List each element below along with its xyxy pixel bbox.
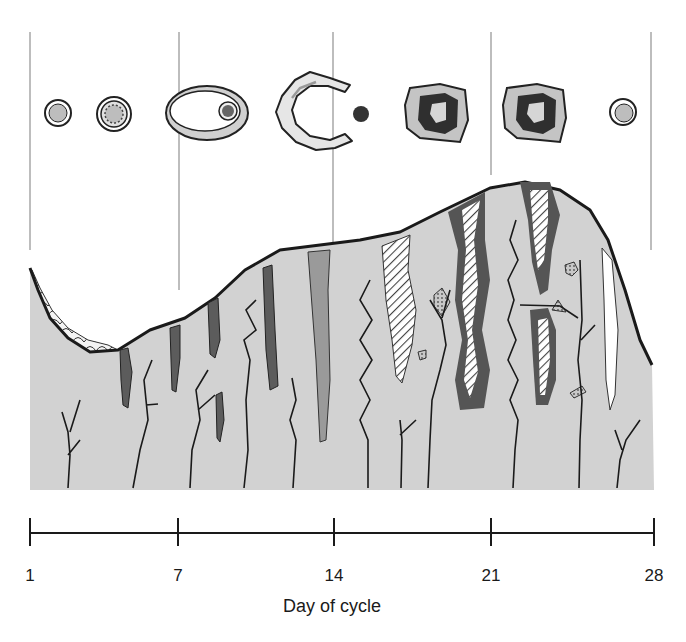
corpus-luteum-icon [503, 84, 566, 142]
ruptured-follicle-icon [276, 72, 369, 150]
tick-label-day-28: 28 [645, 566, 664, 586]
tick-label-day-21: 21 [482, 566, 501, 586]
tick-label-day-1: 1 [25, 566, 34, 586]
endometrium [30, 182, 654, 490]
axis-title: Day of cycle [283, 596, 381, 617]
graafian-follicle-icon [166, 86, 248, 140]
primordial-follicle-icon [45, 100, 71, 126]
day-axis [30, 518, 654, 546]
menstrual-cycle-diagram [0, 0, 686, 642]
tick-label-day-7: 7 [173, 566, 182, 586]
primary-follicle-icon [97, 97, 131, 131]
ovarian-stages [45, 72, 636, 150]
new-follicle-icon [610, 99, 636, 125]
corpus-luteum-icon [405, 84, 468, 142]
tick-label-day-14: 14 [325, 566, 344, 586]
